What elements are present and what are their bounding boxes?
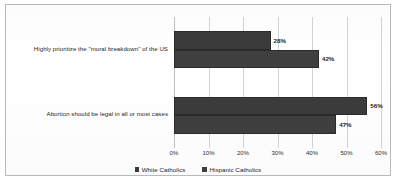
chart-frame: 28%42%56%47% Highly prioritize the "mora…	[5, 4, 391, 176]
gridline-50%	[347, 17, 348, 148]
bar-value-label: 47%	[339, 121, 352, 128]
category-label: Highly prioritize the "moral breakdown" …	[14, 45, 168, 52]
category-label: Abortion should be legal in all or most …	[14, 110, 168, 117]
legend-label: Hispanic Catholics	[209, 166, 261, 173]
bar-value-label: 56%	[370, 102, 383, 109]
bar	[174, 97, 367, 116]
legend-item[interactable]: White Catholics	[135, 166, 186, 173]
legend-swatch-icon	[135, 167, 140, 172]
bar-value-label: 42%	[322, 55, 335, 62]
chart-screenshot: 28%42%56%47% Highly prioritize the "mora…	[0, 0, 399, 189]
bar	[174, 31, 271, 50]
x-tick-label: 30%	[271, 150, 283, 156]
x-axis-tick-labels: 0%10%20%30%40%50%60%	[174, 150, 381, 162]
x-tick-label: 60%	[375, 150, 387, 156]
bar-value-label: 28%	[274, 37, 287, 44]
category-axis-labels: Highly prioritize the "moral breakdown" …	[14, 17, 172, 148]
chart-legend: White CatholicsHispanic Catholics	[6, 166, 390, 173]
plot-area: 28%42%56%47%	[174, 17, 381, 148]
legend-label: White Catholics	[142, 166, 186, 173]
gridline-60%	[381, 17, 382, 148]
x-tick-label: 50%	[340, 150, 352, 156]
x-tick-label: 0%	[170, 150, 179, 156]
legend-item[interactable]: Hispanic Catholics	[202, 166, 261, 173]
x-tick-label: 40%	[306, 150, 318, 156]
x-tick-label: 20%	[237, 150, 249, 156]
bar	[174, 115, 336, 134]
x-tick-label: 10%	[202, 150, 214, 156]
legend-swatch-icon	[202, 167, 207, 172]
bar	[174, 50, 319, 69]
